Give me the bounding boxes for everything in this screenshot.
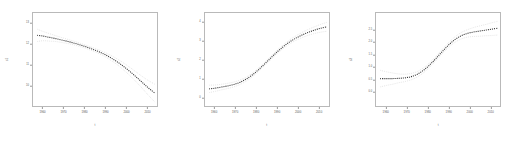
panel-1-xtick-label: 1990 — [102, 111, 108, 114]
panel-1-x-axis-title: t — [32, 124, 158, 127]
panel-1-ytick-label: 11 — [26, 63, 29, 66]
panel-3-xtick-mark — [490, 107, 491, 109]
panel-2-fit-line — [209, 27, 327, 89]
panel-2-ytick-label: 4 — [199, 20, 200, 23]
panel-3-y-axis-ticks: 0.00.51.01.52.02.5 — [343, 12, 375, 107]
panel-1-xtick-mark — [84, 107, 85, 109]
panel-3-xtick-label: 1990 — [446, 111, 452, 114]
panel-3-xtick-label: 1980 — [425, 111, 431, 114]
panel-2-xtick: 2010 — [316, 107, 322, 114]
panel-3-ytick: 2.5 — [369, 28, 376, 31]
panel-1-xtick: 2000 — [123, 107, 129, 114]
panel-3-fit-line — [380, 28, 498, 78]
panel-1-xtick: 1970 — [60, 107, 66, 114]
panel-1-xtick: 1990 — [102, 107, 108, 114]
panel-2-confidence-band — [209, 22, 327, 92]
panel-1-xtick-mark — [63, 107, 64, 109]
panel-3-xtick-label: 2000 — [467, 111, 473, 114]
panel-3-curve — [376, 13, 500, 106]
panel-3-ytick-label: 2.5 — [369, 28, 373, 31]
panel-1-plot-area — [32, 12, 158, 107]
panel-1-ytick-label: 10 — [26, 85, 29, 88]
panel-3-ytick-label: 2.0 — [369, 41, 373, 44]
panel-1-xtick-label: 1980 — [81, 111, 87, 114]
panel-3-ytick: 1.0 — [369, 66, 376, 69]
panel-1-ytick-label: 13 — [26, 21, 29, 24]
panel-2-plot-area — [204, 12, 330, 107]
panel-1-xtick-label: 1960 — [39, 111, 45, 114]
panel-3-ytick-label: 0.5 — [369, 78, 373, 81]
panel-3-xtick: 1960 — [383, 107, 389, 114]
panel-2-xtick: 1960 — [211, 107, 217, 114]
panel-2-xtick-mark — [214, 107, 215, 109]
panel-3-xtick-mark — [385, 107, 386, 109]
panel-1-xtick-label: 1970 — [60, 111, 66, 114]
panel-3-xtick: 2010 — [488, 107, 494, 114]
panel-3-xtick: 1990 — [446, 107, 452, 114]
panel-2-xtick-mark — [235, 107, 236, 109]
multi-panel-figure: s1 10111213 196019701980199020002010 t s… — [0, 0, 515, 141]
panel-3-ytick: 0.0 — [369, 91, 376, 94]
panel-1-x-axis-ticks: 196019701980199020002010 — [32, 107, 158, 123]
panel-1-xtick-mark — [42, 107, 43, 109]
panel-1-xtick-label: 2000 — [123, 111, 129, 114]
panel-2-ytick-label: 3 — [199, 39, 200, 42]
panel-2-xtick: 1980 — [253, 107, 259, 114]
panel-1-xtick: 2010 — [144, 107, 150, 114]
panel-3-x-axis-ticks: 196019701980199020002010 — [375, 107, 501, 123]
panel-3-ytick-label: 0.0 — [369, 91, 373, 94]
panel-3-xtick: 1970 — [404, 107, 410, 114]
panel-1-xtick-mark — [126, 107, 127, 109]
panel-1-xtick: 1960 — [39, 107, 45, 114]
panel-2-x-axis-ticks: 196019701980199020002010 — [204, 107, 330, 123]
panel-3-xtick-label: 1960 — [383, 111, 389, 114]
panel-3-xtick-mark — [406, 107, 407, 109]
panel-1-xtick-mark — [105, 107, 106, 109]
panel-1-xtick-label: 2010 — [144, 111, 150, 114]
panel-2-ytick-label: 0 — [199, 96, 200, 99]
panel-2-xtick-label: 2000 — [295, 111, 301, 114]
panel-1-xtick: 1980 — [81, 107, 87, 114]
panel-3-xtick: 2000 — [467, 107, 473, 114]
panel-2-ytick-label: 1 — [199, 77, 200, 80]
panel-3-ytick-label: 1.5 — [369, 53, 373, 56]
panel-1-confidence-band — [37, 29, 155, 102]
panel-3-xtick-mark — [469, 107, 470, 109]
panel-2-xtick: 2000 — [295, 107, 301, 114]
panel-2-xtick-label: 1970 — [232, 111, 238, 114]
panel-1-curve — [33, 13, 157, 106]
panel-1: s1 10111213 196019701980199020002010 t — [0, 0, 172, 141]
panel-2-xtick-label: 1980 — [253, 111, 259, 114]
panel-3-xtick-label: 2010 — [488, 111, 494, 114]
panel-2-x-axis-title: t — [204, 124, 330, 127]
panel-2-xtick-label: 1990 — [274, 111, 280, 114]
panel-2-xtick-label: 1960 — [211, 111, 217, 114]
panel-3-xtick-mark — [427, 107, 428, 109]
panel-2-xtick-mark — [277, 107, 278, 109]
panel-3: s3 0.00.51.01.52.02.5 196019701980199020… — [343, 0, 515, 141]
panel-2-xtick: 1990 — [274, 107, 280, 114]
panel-2-y-axis-ticks: 01234 — [172, 12, 204, 107]
panel-3-xtick-mark — [448, 107, 449, 109]
panel-3-ytick: 2.0 — [369, 41, 376, 44]
panel-2-xtick-label: 2010 — [316, 111, 322, 114]
panel-2-curve — [205, 13, 329, 106]
panel-3-x-axis-title: t — [375, 124, 501, 127]
panel-3-ytick: 1.5 — [369, 53, 376, 56]
panel-2-xtick-mark — [256, 107, 257, 109]
panel-3-xtick: 1980 — [425, 107, 431, 114]
panel-3-plot-area — [375, 12, 501, 107]
panel-3-xtick-label: 1970 — [404, 111, 410, 114]
panel-2: s2 01234 196019701980199020002010 t — [172, 0, 344, 141]
panel-1-ytick-label: 12 — [26, 42, 29, 45]
panel-1-fit-line — [37, 35, 155, 93]
panel-2-xtick-mark — [298, 107, 299, 109]
panel-2-ytick-label: 2 — [199, 58, 200, 61]
panel-2-xtick: 1970 — [232, 107, 238, 114]
panel-1-y-axis-ticks: 10111213 — [0, 12, 32, 107]
panel-1-xtick-mark — [147, 107, 148, 109]
panel-3-ytick: 0.5 — [369, 78, 376, 81]
panel-2-xtick-mark — [319, 107, 320, 109]
panel-3-ytick-label: 1.0 — [369, 66, 373, 69]
